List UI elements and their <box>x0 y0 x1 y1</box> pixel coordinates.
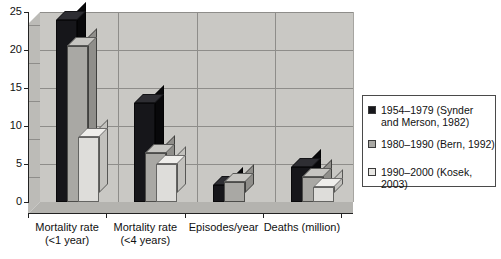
gridline-depth-y-5 <box>28 164 40 178</box>
legend-label-1: 1954–1979 (Synder and Merson, 1982) <box>381 104 473 128</box>
bar-series3-cat2 <box>156 164 177 202</box>
y-tick-mark-20 <box>24 50 29 51</box>
y-axis-line <box>28 12 29 202</box>
y-tick-label-5: 5 <box>0 158 22 169</box>
gray-swatch <box>368 140 376 148</box>
chart-figure: 0510152025 Mortality rate(<1 year)Mortal… <box>0 0 501 259</box>
legend-entry-2: 1980–1990 (Bern, 1992) <box>368 138 495 150</box>
gridline-depth-y-10 <box>28 126 40 140</box>
bar-series2-cat3 <box>224 182 245 202</box>
bar-face-front <box>313 187 334 202</box>
x-category-label-line: (<1 year) <box>28 234 106 247</box>
y-tick-mark-0 <box>24 202 29 203</box>
light-gray-swatch <box>368 168 376 176</box>
y-tick-mark-10 <box>24 126 29 127</box>
x-tick-mark-0 <box>28 213 29 218</box>
gridline-x-3 <box>275 12 276 202</box>
black-swatch <box>368 106 376 114</box>
plot-left-wall <box>28 12 40 214</box>
x-tick-mark-2 <box>185 213 186 218</box>
x-category-label-line: Mortality rate <box>28 221 106 234</box>
gridline-depth-y-25 <box>28 12 40 26</box>
y-tick-label-25: 25 <box>0 6 22 17</box>
y-tick-label-20: 20 <box>0 44 22 55</box>
legend-entry-1: 1954–1979 (Synder and Merson, 1982) <box>368 104 473 128</box>
x-axis-line <box>28 213 353 214</box>
x-category-label-line: Episodes/year <box>185 221 263 234</box>
x-tick-mark-3 <box>263 213 264 218</box>
legend-label-2: 1980–1990 (Bern, 1992) <box>381 138 495 150</box>
chart-legend: 1954–1979 (Synder and Merson, 1982)1980–… <box>362 95 496 187</box>
gridline-depth-y-20 <box>28 50 40 64</box>
x-tick-mark-4 <box>341 213 342 218</box>
x-category-label-2: Mortality rate(<4 years) <box>106 221 184 247</box>
legend-entry-3: 1990–2000 (Kosek, 2003) <box>368 166 495 190</box>
x-category-label-1: Mortality rate(<1 year) <box>28 221 106 247</box>
gridline-x-1 <box>118 12 119 202</box>
y-tick-mark-25 <box>24 12 29 13</box>
y-tick-mark-15 <box>24 88 29 89</box>
bar-series3-cat1 <box>78 137 99 202</box>
bar-face-front <box>224 182 245 202</box>
x-category-label-line: (<4 years) <box>106 234 184 247</box>
gridline-x-2 <box>197 12 198 202</box>
y-tick-label-10: 10 <box>0 120 22 131</box>
gridline-depth-y-15 <box>28 88 40 102</box>
y-tick-label-15: 15 <box>0 82 22 93</box>
bar-face-front <box>78 137 99 202</box>
y-tick-label-0: 0 <box>0 196 22 207</box>
x-tick-mark-1 <box>106 213 107 218</box>
plot-area <box>28 12 353 214</box>
x-category-label-line: Mortality rate <box>106 221 184 234</box>
bar-face-front <box>156 164 177 202</box>
x-category-label-line: Deaths (million) <box>263 221 341 234</box>
x-category-label-4: Deaths (million) <box>263 221 341 234</box>
bar-series3-cat4 <box>313 187 334 202</box>
legend-label-3: 1990–2000 (Kosek, 2003) <box>381 166 495 190</box>
y-tick-mark-5 <box>24 164 29 165</box>
x-category-label-3: Episodes/year <box>185 221 263 234</box>
